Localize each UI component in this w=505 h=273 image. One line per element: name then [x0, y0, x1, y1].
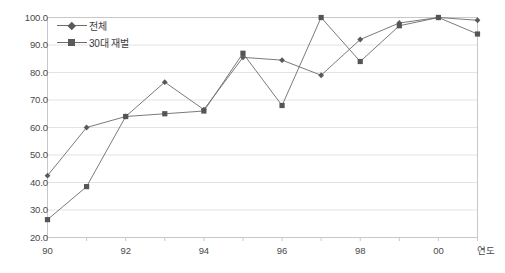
- x-axis-label: 98: [340, 245, 380, 256]
- line-chart: 100.090.080.070.060.050.040.030.020.0 90…: [0, 0, 505, 273]
- x-axis-label: 00: [418, 245, 458, 256]
- legend-item-total: 전체: [57, 17, 152, 34]
- x-axis-label: 94: [184, 245, 224, 256]
- x-axis-title: 연도: [466, 245, 505, 256]
- x-axis-label: 96: [262, 245, 302, 256]
- legend-item-chaebol: 30대 재벌: [57, 34, 152, 51]
- x-axis-label: 90: [28, 245, 68, 256]
- legend-label-total: 전체: [87, 18, 107, 33]
- legend-label-chaebol: 30대 재벌: [87, 35, 129, 50]
- legend-key-square-icon: [57, 37, 87, 49]
- legend-key-diamond-icon: [57, 20, 87, 32]
- x-axis-label: 92: [106, 245, 146, 256]
- chart-legend: 전체 30대 재벌: [57, 17, 152, 51]
